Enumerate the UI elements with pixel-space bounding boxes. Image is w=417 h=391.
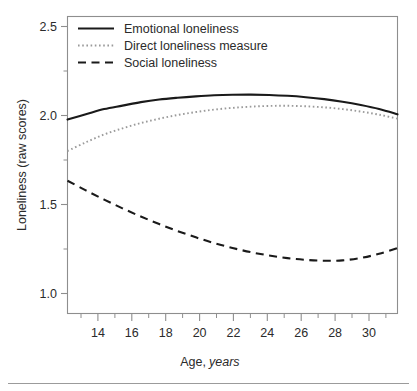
figure-container: 2.5 2.0 1.5 1.0 Loneliness (raw scores) [0,0,417,391]
y-tick-label: 2.0 [40,109,57,123]
plot-frame [68,17,398,314]
y-axis-tick-labels: 2.5 2.0 1.5 1.0 [40,20,57,301]
data-series-group [68,95,398,261]
x-tick-label: 28 [328,326,342,340]
x-tick-label: 22 [226,326,240,340]
x-tick-label: 26 [294,326,308,340]
loneliness-by-age-line-chart: 2.5 2.0 1.5 1.0 Loneliness (raw scores) [0,0,417,391]
x-axis-title-italic: years [208,355,240,369]
y-tick-label: 1.0 [40,287,57,301]
legend-item-social-loneliness: Social loneliness [78,56,217,70]
x-axis-title-plain: Age, [180,355,206,369]
y-tick-label: 1.5 [40,198,57,212]
x-tick-label: 24 [260,326,274,340]
series-social-loneliness [68,181,398,261]
legend: Emotional loneliness Direct loneliness m… [78,22,268,70]
y-axis-title: Loneliness (raw scores) [15,99,29,231]
x-tick-label: 20 [193,326,207,340]
x-tick-label: 16 [125,326,139,340]
legend-item-emotional-loneliness: Emotional loneliness [78,22,239,36]
y-axis-minor-ticks [64,71,68,249]
y-tick-label: 2.5 [40,20,57,34]
legend-label: Emotional loneliness [124,22,239,36]
series-emotional-loneliness [68,95,398,120]
x-axis-title: Age, years [180,355,239,369]
series-direct-loneliness-measure [68,106,398,151]
legend-label: Direct loneliness measure [124,39,268,53]
legend-item-direct-loneliness-measure: Direct loneliness measure [78,39,268,53]
x-axis-major-ticks [98,314,369,322]
x-tick-label: 18 [159,326,173,340]
legend-label: Social loneliness [124,56,217,70]
x-tick-label: 14 [91,326,105,340]
x-tick-label: 30 [362,326,376,340]
x-axis-tick-labels: 14 16 18 20 22 24 26 28 30 [91,326,376,340]
